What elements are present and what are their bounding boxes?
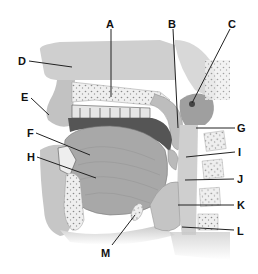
label-I: I bbox=[238, 146, 241, 158]
label-B: B bbox=[168, 18, 176, 30]
label-L: L bbox=[237, 225, 244, 237]
nose-region bbox=[40, 40, 175, 80]
label-M: M bbox=[101, 247, 110, 259]
anatomy-diagram: A B C D E F H G I J K L M bbox=[0, 0, 258, 274]
auditory-tube-opening bbox=[189, 101, 195, 107]
label-E: E bbox=[21, 91, 28, 103]
label-A: A bbox=[106, 18, 114, 30]
label-H: H bbox=[27, 151, 35, 163]
epiglottis bbox=[168, 150, 178, 170]
label-K: K bbox=[237, 199, 245, 211]
neck-fade bbox=[170, 232, 230, 260]
label-D: D bbox=[18, 55, 26, 67]
leader-E bbox=[31, 98, 49, 115]
label-F: F bbox=[27, 127, 34, 139]
label-G: G bbox=[237, 122, 246, 134]
label-J: J bbox=[237, 173, 243, 185]
upper-teeth bbox=[72, 105, 150, 118]
label-C: C bbox=[228, 18, 236, 30]
